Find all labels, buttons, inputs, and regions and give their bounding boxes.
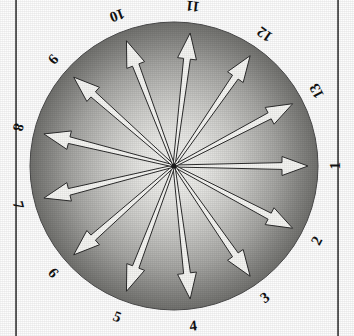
center-hub (171, 163, 176, 168)
figure-container: 12345678910111213 (0, 0, 354, 336)
diagram-stage: 12345678910111213 (0, 0, 354, 336)
rim-label-1: 1 (328, 162, 343, 169)
rim-label-11: 11 (186, 0, 201, 14)
radial-arrow-diagram (0, 0, 354, 336)
